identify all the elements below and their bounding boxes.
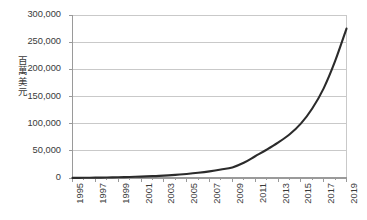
x-axis-tick-label: 2003 [167, 183, 176, 204]
x-axis-tick-label: 2011 [259, 183, 268, 203]
x-axis-tick-label: 2017 [327, 183, 336, 204]
x-axis-tick-label: 1997 [99, 183, 108, 204]
x-axis-tick-label: 2015 [304, 183, 313, 204]
x-axis-tick-label: 1995 [76, 183, 85, 204]
x-axis-tick-label: 2005 [190, 183, 199, 204]
x-axis-tick-label: 2019 [350, 183, 359, 204]
x-axis-tick-label: 2009 [236, 183, 245, 204]
x-axis-tick-label: 2007 [213, 183, 222, 204]
chart-figure: 百 萬 美 元 050,000100,000150,000200,000250,… [0, 0, 367, 220]
x-axis-tick-labels: 1995199719992001200320052007200920112013… [0, 0, 367, 220]
x-axis-tick-label: 2001 [145, 183, 154, 204]
x-axis-tick-label: 2013 [282, 183, 291, 204]
x-axis-tick-label: 1999 [122, 183, 131, 204]
